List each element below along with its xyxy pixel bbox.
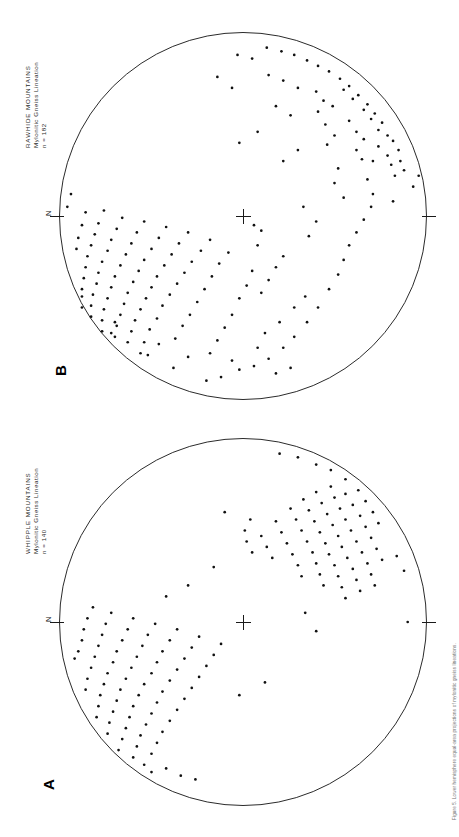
data-point — [331, 105, 334, 108]
data-point — [81, 639, 84, 642]
data-point — [165, 595, 168, 598]
data-point — [361, 551, 364, 554]
data-point — [253, 224, 256, 227]
data-point — [99, 694, 102, 697]
data-point — [150, 672, 153, 675]
data-point — [308, 509, 311, 512]
data-point — [366, 178, 369, 181]
data-point — [231, 359, 234, 362]
data-point — [295, 518, 298, 521]
data-point — [278, 321, 281, 324]
data-point — [373, 584, 376, 587]
data-point — [328, 553, 331, 556]
data-point — [370, 118, 373, 121]
data-point — [362, 109, 365, 112]
data-point — [406, 621, 409, 624]
data-point — [348, 244, 351, 247]
data-point — [145, 297, 148, 300]
data-point — [282, 160, 285, 163]
data-point — [333, 182, 336, 185]
data-point — [150, 286, 153, 289]
data-point — [315, 90, 318, 93]
data-point — [141, 644, 144, 647]
data-point — [403, 169, 406, 172]
data-point — [355, 579, 358, 582]
data-point — [216, 76, 219, 79]
data-points-b — [0, 0, 459, 418]
data-point — [75, 248, 78, 251]
data-point — [313, 520, 316, 523]
data-point — [82, 277, 85, 280]
data-point — [322, 99, 325, 102]
data-point — [373, 112, 376, 115]
data-point — [139, 308, 142, 311]
data-point — [333, 134, 336, 137]
data-point — [163, 264, 166, 267]
data-point — [112, 710, 115, 713]
data-point — [143, 259, 146, 262]
data-point — [370, 206, 373, 209]
data-point — [220, 376, 223, 379]
data-point — [200, 249, 203, 252]
data-point — [331, 524, 334, 527]
data-point — [194, 778, 197, 781]
data-point — [97, 222, 100, 225]
data-point — [203, 288, 206, 291]
panel-title-line1-a: WHIPPLE MOUNTAINS — [24, 468, 32, 554]
data-point — [168, 639, 171, 642]
data-point — [161, 650, 164, 653]
data-point — [103, 308, 106, 311]
data-point — [282, 255, 285, 258]
data-point — [324, 123, 327, 126]
data-point — [381, 121, 384, 124]
data-point — [286, 542, 289, 545]
data-point — [157, 237, 160, 240]
data-point — [148, 328, 151, 331]
data-point — [97, 644, 100, 647]
data-point — [90, 666, 93, 669]
panel-title-line2-a: Mylonitic Gneiss Lineation — [32, 468, 40, 554]
data-point — [238, 297, 241, 300]
data-point — [351, 98, 354, 101]
data-point — [333, 564, 336, 567]
data-point — [101, 330, 104, 333]
data-point — [289, 507, 292, 510]
data-point — [181, 324, 184, 327]
data-point — [282, 79, 285, 82]
data-point — [359, 590, 362, 593]
data-point — [157, 343, 160, 346]
data-point — [337, 273, 340, 276]
data-point — [205, 379, 208, 382]
panel-title-line2-b: Mylonitic Gneiss Lineation — [32, 62, 40, 148]
data-point — [115, 699, 118, 702]
data-point — [223, 326, 226, 329]
data-point — [249, 518, 252, 521]
north-tick-b — [50, 216, 64, 217]
data-point — [198, 676, 201, 679]
data-point — [333, 496, 336, 499]
data-point — [238, 694, 241, 697]
data-point — [134, 319, 137, 322]
data-point — [146, 354, 149, 357]
data-point — [161, 690, 164, 693]
data-point — [156, 741, 159, 744]
data-point — [302, 206, 305, 209]
data-point — [370, 536, 373, 539]
data-point — [126, 341, 129, 344]
data-point — [212, 654, 215, 657]
data-point — [86, 677, 89, 680]
data-point — [339, 507, 342, 510]
data-point — [81, 224, 84, 227]
data-point — [90, 304, 93, 307]
data-point — [114, 335, 117, 338]
data-point — [143, 763, 146, 766]
data-point — [187, 231, 190, 234]
center-cross-b — [236, 209, 251, 224]
data-point — [84, 266, 87, 269]
data-point — [267, 74, 270, 77]
data-point — [95, 716, 98, 719]
data-point — [417, 174, 420, 177]
data-point — [260, 292, 263, 295]
data-point — [328, 288, 331, 291]
data-point — [190, 260, 193, 263]
